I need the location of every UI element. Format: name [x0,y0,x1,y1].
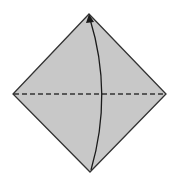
paper-square [13,14,166,172]
origami-diagram [0,0,179,179]
